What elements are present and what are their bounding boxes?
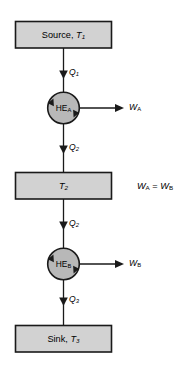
- arrowhead-q1: [59, 71, 68, 80]
- heat-engine-cascade-diagram: Source, T1 HEA T2 HEB Sink, T3 Q1: [0, 0, 192, 377]
- flow-label-q2-lower: Q2: [69, 218, 80, 228]
- flow-label-wa: WA: [129, 102, 141, 112]
- arrowhead-wa: [115, 104, 124, 112]
- flow-label-q3: Q3: [69, 294, 80, 304]
- flow-label-q2-upper: Q2: [69, 142, 80, 152]
- arrowhead-q3: [59, 298, 68, 307]
- node-sink-label: Sink, T3: [47, 334, 80, 344]
- flow-label-q1: Q1: [69, 67, 79, 77]
- diagram-canvas: Source, T1 HEA T2 HEB Sink, T3 Q1: [0, 0, 192, 377]
- arrowhead-q2-upper: [59, 146, 68, 155]
- relation-work-equality: WA = WB: [137, 181, 173, 191]
- node-source-label: Source, T1: [42, 30, 85, 40]
- arrowhead-q2-lower: [59, 222, 68, 231]
- arrowhead-wb: [115, 260, 124, 268]
- flow-label-wb: WB: [129, 258, 141, 268]
